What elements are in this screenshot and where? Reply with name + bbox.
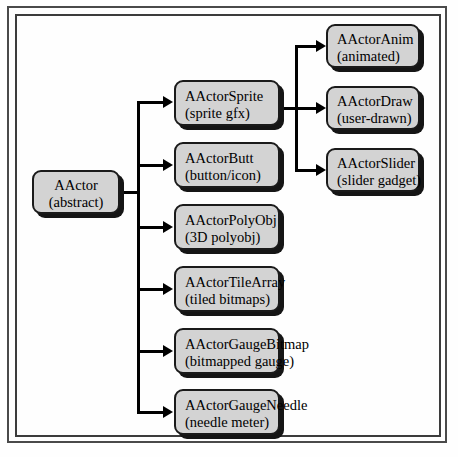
node-aactor-name: AActor [54,177,98,193]
node-aactorbutt-subtitle: (button/icon) [185,167,278,183]
class-hierarchy-diagram: AActor (abstract) AActorSprite (sprite g… [0,0,458,457]
arrowhead-draw [316,102,326,114]
connector-branch-tilearray [137,288,165,291]
connector-root-trunk [137,101,140,412]
node-aactorgaugebitmap[interactable]: AActorGaugeBitmap (bitmapped gauge) [174,328,280,374]
arrowhead-butt [163,159,173,171]
arrowhead-anim [316,40,326,52]
node-aactorgaugebitmap-subtitle: (bitmapped gauge) [185,353,278,369]
node-aactorgaugebitmap-name: AActorGaugeBitmap [185,336,278,352]
node-aactortilearray[interactable]: AActorTileArray (tiled bitmaps) [174,266,280,312]
node-aactorpolyobj[interactable]: AActorPolyObj (3D polyobj) [174,204,280,250]
node-aactorsprite-subtitle: (sprite gfx) [185,105,278,121]
connector-branch-butt [137,164,165,167]
arrowhead-gaugebitmap [163,345,173,357]
arrowhead-sprite [163,96,173,108]
node-aactordraw-name: AActorDraw [337,93,418,109]
node-aactorsprite[interactable]: AActorSprite (sprite gfx) [174,80,280,126]
node-aactorslider[interactable]: AActorSlider (slider gadget) [326,148,420,192]
node-aactorslider-name: AActorSlider [337,155,418,171]
node-aactorbutt-name: AActorButt [185,150,278,166]
arrowhead-tilearray [163,283,173,295]
connector-branch-gaugebitmap [137,350,165,353]
node-aactoranim-subtitle: (animated) [337,48,418,64]
node-aactor-subtitle: (abstract) [49,194,104,210]
node-aactorbutt[interactable]: AActorButt (button/icon) [174,142,280,188]
node-aactoranim-name: AActorAnim [337,31,418,47]
node-aactorpolyobj-name: AActorPolyObj [185,212,278,228]
node-aactorsprite-name: AActorSprite [185,88,278,104]
connector-branch-gaugeneedle [137,411,165,414]
arrowhead-gaugeneedle [163,406,173,418]
arrowhead-slider [316,164,326,176]
node-aactorpolyobj-subtitle: (3D polyobj) [185,229,278,245]
node-aactorgaugeneedle-name: AActorGaugeNeedle [185,397,278,413]
node-aactordraw[interactable]: AActorDraw (user-drawn) [326,86,420,130]
node-aactortilearray-name: AActorTileArray [185,274,278,290]
node-aactordraw-subtitle: (user-drawn) [337,110,418,126]
node-aactorgaugeneedle[interactable]: AActorGaugeNeedle (needle meter) [174,389,280,435]
node-aactorslider-subtitle: (slider gadget) [337,172,418,188]
node-aactorgaugeneedle-subtitle: (needle meter) [185,414,278,430]
connector-branch-sprite [137,101,165,104]
arrowhead-polyobj [163,221,173,233]
node-aactoranim[interactable]: AActorAnim (animated) [326,24,420,68]
node-aactortilearray-subtitle: (tiled bitmaps) [185,291,278,307]
connector-branch-polyobj [137,226,165,229]
node-aactor[interactable]: AActor (abstract) [32,170,120,214]
